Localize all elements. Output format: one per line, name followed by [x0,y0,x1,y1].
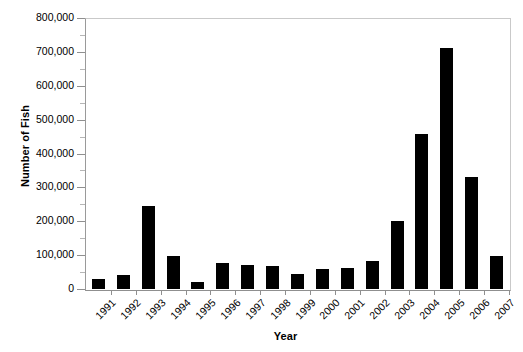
y-axis-tick [77,154,85,155]
x-axis-tick [360,290,361,295]
y-axis-tick-label: 100,000 [0,249,74,259]
x-axis-title-text: Year [274,330,298,342]
y-axis-tick [77,52,85,53]
y-axis-tick [77,187,85,188]
x-axis-tick [161,290,162,295]
x-axis-tick [285,290,286,295]
y-axis-tick-label: 0 [0,283,74,293]
x-axis-tick [111,290,112,295]
y-axis-tick-label: 400,000 [0,148,74,158]
y-axis-tick-label: 500,000 [0,114,74,124]
bar [191,282,204,289]
bars-layer [86,18,509,289]
y-axis-tick-label: 300,000 [0,181,74,191]
x-axis-tick [484,290,485,295]
x-axis-tick [186,290,187,295]
x-axis-tick [136,290,137,295]
x-axis-tick [434,290,435,295]
x-axis-tick [459,290,460,295]
y-axis-tick [77,120,85,121]
y-axis-tick-label: 700,000 [0,46,74,56]
y-axis-tick [77,221,85,222]
bar [266,266,279,289]
bar [465,177,478,289]
bar [291,274,304,289]
x-axis-tick [210,290,211,295]
bar [316,269,329,289]
x-axis-title: Year [0,330,523,342]
y-axis-tick-label: 800,000 [0,12,74,22]
bar [440,48,453,289]
x-axis-tick [260,290,261,295]
y-axis-tick-label: 200,000 [0,215,74,225]
bar [167,256,180,289]
bar [341,268,354,289]
bar [415,134,428,289]
x-axis-tick [409,290,410,295]
y-axis-tick [77,289,85,290]
x-axis-tick [235,290,236,295]
bar [490,256,503,289]
x-axis-tick [310,290,311,295]
y-axis-tick [77,255,85,256]
bar [241,265,254,289]
x-axis-tick [385,290,386,295]
y-axis-tick-label: 600,000 [0,80,74,90]
x-axis-tick [509,290,510,295]
bar [391,221,404,289]
bar [117,275,130,289]
bar-chart: Number of Fish 0100,000200,000300,000400… [0,0,523,352]
bar [92,279,105,289]
y-axis-tick [77,86,85,87]
y-axis-title: Number of Fish [19,76,31,216]
bar [216,263,229,289]
bar [142,206,155,289]
bar [366,261,379,289]
x-axis-tick [335,290,336,295]
y-axis-tick [77,18,85,19]
